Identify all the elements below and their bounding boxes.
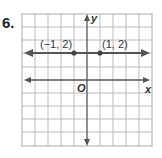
point-label-neg1-2: (−1, 2) bbox=[40, 38, 72, 50]
y-axis-label: y bbox=[91, 12, 97, 24]
origin-label: O bbox=[77, 82, 86, 94]
point-1-2 bbox=[97, 50, 102, 55]
point-neg1-2 bbox=[71, 50, 76, 55]
x-axis-label: x bbox=[145, 83, 151, 95]
coordinate-graph bbox=[0, 0, 162, 158]
point-label-1-2: (1, 2) bbox=[102, 38, 128, 50]
